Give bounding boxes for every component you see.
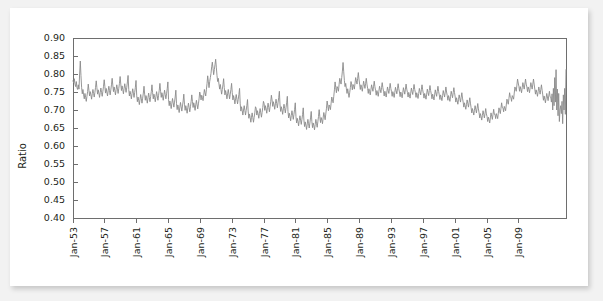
x-tick-label: Jan-97 bbox=[418, 227, 429, 258]
x-tick-label: Jan-61 bbox=[131, 227, 142, 258]
plot-border bbox=[73, 38, 566, 218]
x-tick-label: Jan-77 bbox=[259, 227, 270, 258]
y-tick-label: 0.55 bbox=[44, 158, 65, 169]
x-tick-label: Jan-73 bbox=[227, 227, 238, 258]
y-tick-label: 0.60 bbox=[44, 140, 65, 151]
y-tick-label: 0.65 bbox=[44, 122, 65, 133]
x-tick-label: Jan-09 bbox=[513, 227, 524, 258]
y-tick-label: 0.40 bbox=[44, 212, 65, 223]
y-tick-label: 0.90 bbox=[44, 32, 65, 43]
chart-card: 0.900.850.800.750.700.650.600.550.500.45… bbox=[10, 8, 588, 286]
x-tick-label: Jan-81 bbox=[290, 227, 301, 258]
x-tick-label: Jan-85 bbox=[322, 227, 333, 258]
y-axis-label: Ratio bbox=[17, 143, 28, 169]
ratio-line-chart: 0.900.850.800.750.700.650.600.550.500.45… bbox=[10, 8, 588, 286]
ratio-series-line bbox=[73, 59, 566, 130]
plot-frame bbox=[73, 38, 566, 218]
x-tick-label: Jan-01 bbox=[450, 227, 461, 258]
x-tick-label: Jan-05 bbox=[482, 227, 493, 258]
y-tick-label: 0.45 bbox=[44, 194, 65, 205]
x-tick-label: Jan-93 bbox=[386, 227, 397, 258]
x-tick-label: Jan-69 bbox=[195, 227, 206, 258]
data-series bbox=[73, 59, 566, 130]
y-tick-label: 0.85 bbox=[44, 50, 65, 61]
y-tick-label: 0.70 bbox=[44, 104, 65, 115]
y-tick-label: 0.50 bbox=[44, 176, 65, 187]
y-tick-label: 0.80 bbox=[44, 68, 65, 79]
x-tick-label: Jan-89 bbox=[354, 227, 365, 258]
x-tick-label: Jan-57 bbox=[99, 227, 110, 258]
y-tick-label: 0.75 bbox=[44, 86, 65, 97]
x-tick-label: Jan-65 bbox=[163, 227, 174, 258]
x-axis-ticks: Jan-53Jan-57Jan-61Jan-65Jan-69Jan-73Jan-… bbox=[68, 218, 525, 258]
x-tick-label: Jan-53 bbox=[68, 227, 79, 258]
